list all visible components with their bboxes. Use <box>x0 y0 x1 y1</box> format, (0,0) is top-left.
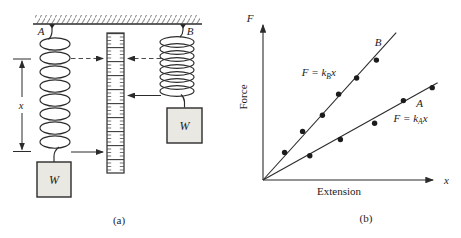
data-point-A <box>338 137 343 142</box>
equation-B: F = kBx <box>301 66 336 81</box>
spring-a <box>40 26 70 163</box>
fit-line-A <box>263 83 438 180</box>
series-label-A: A <box>415 97 423 109</box>
data-point-A <box>430 85 435 90</box>
data-point-A <box>307 153 312 158</box>
spring-b-label: B <box>187 25 194 37</box>
data-point-B <box>374 57 379 62</box>
weight-b-label: W <box>180 119 191 133</box>
equation-A: F = kAx <box>393 112 428 127</box>
extension-x-label: x <box>18 100 24 111</box>
x-axis-label: Extension <box>317 185 361 197</box>
data-point-B <box>354 75 359 80</box>
data-point-B <box>320 113 325 118</box>
fit-line-B <box>263 33 396 180</box>
figure-canvas: x W W A B (a) FxExtensionForceBF = kBxAF… <box>0 0 461 238</box>
ceiling-hatch <box>35 15 200 24</box>
data-point-B <box>300 129 305 134</box>
weight-a: W <box>37 162 71 197</box>
panel-b-chart: FxExtensionForceBF = kBxAF = kAx <box>237 12 449 197</box>
caption-b: (b) <box>360 212 373 225</box>
series-label-B: B <box>375 36 382 48</box>
data-point-B <box>336 91 341 96</box>
weight-b: W <box>167 108 202 143</box>
ruler <box>107 33 124 173</box>
spring-b <box>160 26 194 108</box>
figure-spring-hooke-law: x W W A B (a) FxExtensionForceBF = kBxAF… <box>0 0 461 238</box>
y-axis-symbol: F <box>246 12 254 24</box>
spring-a-label: A <box>37 25 45 37</box>
data-point-B <box>282 150 287 155</box>
x-axis-symbol: x <box>443 174 449 186</box>
panel-a: x W W A B (a) <box>13 15 202 227</box>
y-axis-label: Force <box>237 84 249 109</box>
data-point-A <box>372 121 377 126</box>
caption-a: (a) <box>113 214 126 227</box>
data-point-A <box>401 98 406 103</box>
weight-a-label: W <box>49 173 60 187</box>
